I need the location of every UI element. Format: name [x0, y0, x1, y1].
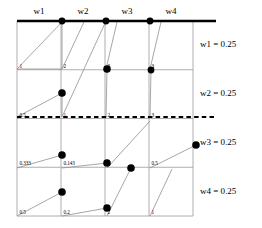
data-point-dot [192, 141, 200, 149]
data-point-dot [58, 151, 66, 159]
cell-value-r2-c2: 1 [64, 112, 67, 118]
cell-value-r1-c3: 3 [108, 63, 111, 69]
slope-line [62, 21, 106, 117]
cell-value-r2-c1: 0.5 [20, 112, 26, 118]
data-point-dot [147, 18, 154, 25]
data-point-dot [103, 18, 110, 25]
cell-value-r3-c3: 1 [108, 160, 111, 166]
slope-line [150, 70, 151, 117]
row-weight-label-4: w4 = 0.25 [200, 186, 236, 196]
cell-value-r1-c1: 1 [20, 63, 23, 69]
cell-value-r1-c4: 3 [152, 63, 155, 69]
cell-value-r2-c3: 2 [108, 112, 111, 118]
column-header-w2: w2 [63, 6, 103, 16]
data-point-dot [59, 18, 66, 25]
cell-value-r2-c4: 3 [152, 112, 155, 118]
cell-value-r3-c1: 0.333 [20, 160, 31, 166]
column-header-w4: w4 [151, 6, 191, 16]
row-weight-label-1: w1 = 0.25 [200, 39, 236, 49]
cell-value-r1-c2: 2 [64, 63, 67, 69]
cell-value-r4-c3: 2 [108, 209, 111, 215]
grid-layer [17, 21, 193, 216]
cell-value-r4-c4: 1 [152, 209, 155, 215]
slope-line [17, 22, 62, 69]
slope-line [106, 69, 107, 117]
cell-value-r3-c4: 0.5 [152, 160, 158, 166]
row-weight-label-2: w2 = 0.25 [200, 88, 236, 98]
row-weight-label-3: w3 = 0.25 [200, 137, 236, 147]
cell-value-r4-c1: 0.5 [20, 209, 26, 215]
figure-root: w1w2w3w4 w1 = 0.25w2 = 0.25w3 = 0.25w4 =… [0, 0, 262, 228]
slope-line [107, 121, 150, 168]
data-point-dot [58, 89, 66, 97]
data-point-layer [58, 18, 200, 212]
data-point-dot [127, 164, 135, 172]
column-header-w3: w3 [107, 6, 147, 16]
data-point-dot [58, 188, 66, 196]
cell-value-r3-c2: 0.143 [64, 160, 75, 166]
cell-value-r4-c2: 0.2 [64, 209, 70, 215]
column-header-w1: w1 [19, 6, 59, 16]
